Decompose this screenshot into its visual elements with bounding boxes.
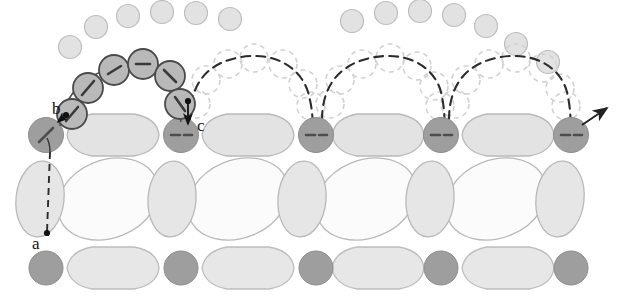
- ghost-adatom: [441, 44, 580, 120]
- label-c: c: [197, 116, 205, 135]
- label-a: a: [32, 234, 40, 253]
- marker-dot-c: [185, 98, 191, 104]
- hop-path-dashed: [190, 56, 571, 122]
- exit-arrow: [582, 108, 607, 125]
- dashed-hop-trajectories: [182, 44, 580, 122]
- diagram-svg: a b c: [0, 0, 621, 303]
- marker-dot-b: [63, 112, 69, 118]
- ghost-adatom: [182, 44, 325, 120]
- marker-dot-a: [44, 230, 50, 236]
- ghost-adatom: [316, 44, 454, 120]
- label-b: b: [52, 99, 61, 118]
- figure-canvas: a b c: [0, 0, 621, 303]
- lattice-row-middle: [12, 143, 588, 254]
- lattice-row-bottom: [29, 247, 588, 289]
